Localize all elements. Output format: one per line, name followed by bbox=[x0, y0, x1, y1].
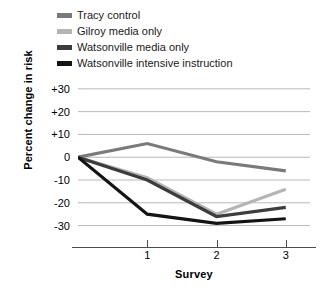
chart-figure: Tracy control Gilroy media only Watsonvi… bbox=[0, 0, 325, 293]
x-axis-tick-mark bbox=[147, 240, 148, 247]
legend-swatch-icon bbox=[57, 13, 72, 18]
chart-legend: Tracy control Gilroy media only Watsonvi… bbox=[57, 8, 319, 72]
x-axis-tick-mark bbox=[217, 240, 218, 247]
y-axis-tick-label: -20 bbox=[54, 197, 70, 208]
legend-item: Gilroy media only bbox=[57, 24, 319, 38]
legend-item-label: Gilroy media only bbox=[77, 26, 162, 37]
x-axis-line bbox=[72, 247, 316, 248]
legend-swatch-icon bbox=[57, 29, 72, 34]
x-axis-tick-label: 2 bbox=[207, 250, 227, 261]
y-axis-tick-labels: +30+20+100-10-20-30 bbox=[30, 82, 74, 237]
data-lines bbox=[78, 82, 310, 237]
y-axis-tick-label: +10 bbox=[51, 129, 70, 140]
y-axis-tick-label: -30 bbox=[54, 220, 70, 231]
legend-item: Watsonville intensive instruction bbox=[57, 56, 319, 70]
legend-swatch-icon bbox=[57, 45, 72, 50]
y-axis-tick-label: 0 bbox=[64, 152, 70, 163]
y-axis-title: Percent change in risk bbox=[22, 30, 34, 190]
y-axis-tick-label: +30 bbox=[51, 83, 70, 94]
plot-area bbox=[78, 82, 310, 237]
legend-swatch-icon bbox=[57, 61, 72, 66]
x-axis-tick-label: 1 bbox=[137, 250, 157, 261]
x-axis-tick-label: 3 bbox=[276, 250, 296, 261]
x-axis-tick-mark bbox=[286, 240, 287, 247]
legend-item-label: Tracy control bbox=[77, 10, 140, 21]
legend-item: Watsonville media only bbox=[57, 40, 319, 54]
legend-item: Tracy control bbox=[57, 8, 319, 22]
legend-item-label: Watsonville media only bbox=[77, 42, 189, 53]
y-axis-tick-label: -10 bbox=[54, 175, 70, 186]
legend-item-label: Watsonville intensive instruction bbox=[77, 58, 233, 69]
x-axis-title: Survey bbox=[78, 268, 310, 280]
y-axis-tick-label: +20 bbox=[51, 106, 70, 117]
